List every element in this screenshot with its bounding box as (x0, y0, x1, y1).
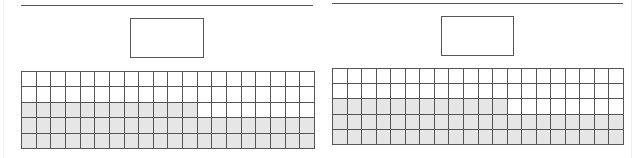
grid-cell (464, 115, 479, 130)
grid-cell (479, 99, 494, 114)
grid-cell (420, 115, 435, 130)
grid-cell (420, 99, 435, 114)
grid-cell (522, 130, 537, 145)
grid-cell (493, 99, 508, 114)
grid-cell (154, 87, 169, 102)
grid-cell (125, 103, 140, 118)
grid-cell (609, 99, 624, 114)
grid-cell (420, 84, 435, 99)
grid-cell (580, 99, 595, 114)
grid-cell (271, 72, 286, 87)
grid-cell (479, 115, 494, 130)
grid-cell (183, 134, 198, 149)
grid-cell (154, 134, 169, 149)
grid-cell (551, 115, 566, 130)
grid-cell (348, 99, 363, 114)
grid-cell (95, 118, 110, 133)
grid-cell (348, 115, 363, 130)
grid-cell (212, 134, 227, 149)
grid-cell (377, 69, 392, 84)
grid-cell (51, 118, 66, 133)
grid-cell (420, 69, 435, 84)
grid-cell (81, 103, 96, 118)
grid-cell (168, 87, 183, 102)
grid-cell (139, 87, 154, 102)
grid-cell (449, 84, 464, 99)
grid-cell (183, 103, 198, 118)
grid-cell (435, 115, 450, 130)
grid-cell (435, 84, 450, 99)
grid-cell (183, 72, 198, 87)
grid-cell (493, 130, 508, 145)
grid-cell (479, 84, 494, 99)
grid-cell (183, 87, 198, 102)
grid-cell (256, 118, 271, 133)
grid-cell (22, 72, 37, 87)
grid-cell (242, 118, 257, 133)
grid-cell (125, 72, 140, 87)
grid-cell (537, 99, 552, 114)
grid-cell (449, 130, 464, 145)
grid-cell (300, 103, 315, 118)
grid-cell (227, 118, 242, 133)
grid-cell (139, 134, 154, 149)
grid-cell (551, 69, 566, 84)
grid-cell (566, 84, 581, 99)
grid-cell (537, 130, 552, 145)
grid-cell (435, 99, 450, 114)
grid-cell (435, 130, 450, 145)
grid-cell (110, 87, 125, 102)
grid-cell (508, 84, 523, 99)
grid-cell (609, 69, 624, 84)
grid-cell (377, 99, 392, 114)
grid-cell (286, 103, 301, 118)
grid-cell (464, 84, 479, 99)
grid-cell (271, 118, 286, 133)
grid-cell (522, 99, 537, 114)
grid-cell (595, 115, 610, 130)
grid-cell (154, 72, 169, 87)
grid-cell (391, 84, 406, 99)
grid-cell (391, 115, 406, 130)
grid-cell (81, 118, 96, 133)
grid-cell (37, 118, 52, 133)
grid-cell (271, 103, 286, 118)
grid-cell (198, 103, 213, 118)
grid-cell (300, 72, 315, 87)
grid-cell (537, 69, 552, 84)
grid-cell (333, 84, 348, 99)
grid-cell (479, 69, 494, 84)
grid-cell (595, 84, 610, 99)
grid-cell (125, 134, 140, 149)
grid-cell (37, 87, 52, 102)
grid-cell (464, 99, 479, 114)
grid-cell (300, 134, 315, 149)
grid-cell (508, 69, 523, 84)
grid-cell (242, 87, 257, 102)
grid-cell (406, 99, 421, 114)
grid-cell (22, 103, 37, 118)
grid-cell (212, 103, 227, 118)
grid-cell (271, 87, 286, 102)
grid-cell (286, 87, 301, 102)
grid-cell (66, 103, 81, 118)
grid-cell (81, 134, 96, 149)
grid-cell (566, 115, 581, 130)
grid-cell (537, 84, 552, 99)
left-empty-box (130, 18, 204, 58)
grid-cell (66, 134, 81, 149)
grid-cell (362, 99, 377, 114)
grid-cell (333, 99, 348, 114)
grid-cell (508, 115, 523, 130)
grid-cell (566, 130, 581, 145)
grid-cell (537, 115, 552, 130)
grid-cell (391, 99, 406, 114)
grid-cell (242, 103, 257, 118)
grid-cell (37, 72, 52, 87)
left-grid (21, 71, 315, 149)
grid-cell (551, 99, 566, 114)
right-edge-line (631, 0, 632, 158)
grid-cell (595, 130, 610, 145)
grid-cell (81, 72, 96, 87)
grid-cell (464, 69, 479, 84)
